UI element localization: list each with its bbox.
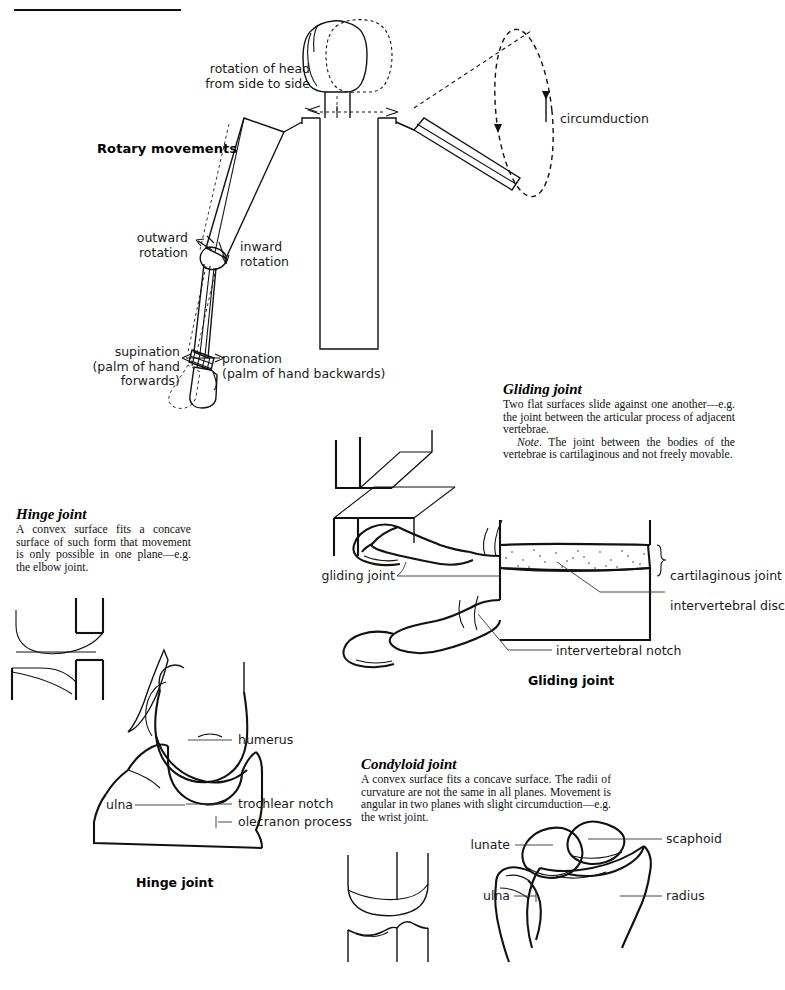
label-ulna-wrist: ulna <box>440 889 510 904</box>
label-scaphoid: scaphoid <box>666 832 722 847</box>
label-radius: radius <box>666 889 705 904</box>
label-lunate: lunate <box>432 838 510 853</box>
